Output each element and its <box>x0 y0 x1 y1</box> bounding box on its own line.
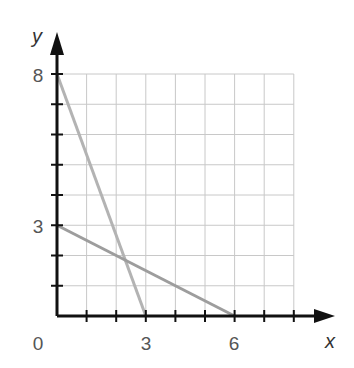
x-tick-label-3: 3 <box>141 333 152 354</box>
x-tick-label-6: 6 <box>229 333 240 354</box>
x-axis-label: x <box>324 330 336 352</box>
y-tick-label-3: 3 <box>33 216 44 237</box>
y-tick-label-8: 8 <box>33 65 44 86</box>
y-axis-arrow-icon <box>50 32 64 55</box>
y-axis-label: y <box>30 25 43 47</box>
x-axis-arrow-icon <box>314 309 335 323</box>
origin-label: 0 <box>33 333 44 354</box>
axes <box>50 32 335 323</box>
grid <box>57 74 294 316</box>
line-chart: 0 3 6 8 3 x y <box>0 0 354 368</box>
